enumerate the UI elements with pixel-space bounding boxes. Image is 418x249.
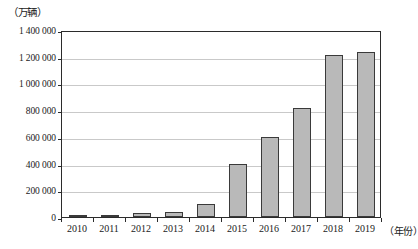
x-axis-tick-label: 2018 xyxy=(323,223,343,234)
bar xyxy=(165,212,183,217)
bar xyxy=(261,137,279,217)
x-axis-tick-labels: 2010201120122013201420152016201720182019 xyxy=(61,223,381,239)
x-axis-tick xyxy=(317,218,318,222)
x-axis-tick xyxy=(189,218,190,222)
y-axis-tick-label: 600 000 xyxy=(26,133,56,143)
bar xyxy=(325,55,343,217)
x-axis-tick-label: 2016 xyxy=(259,223,279,234)
x-axis-tick xyxy=(157,218,158,222)
bar-chart: （万辆） 0200 000400 000600 000800 0001 000 … xyxy=(0,0,418,249)
bars-layer xyxy=(62,32,380,217)
y-axis-tick-label: 400 000 xyxy=(26,160,56,170)
bar xyxy=(69,215,87,218)
y-axis-tick-label: 1 400 000 xyxy=(19,26,56,36)
y-axis-unit-label: （万辆） xyxy=(8,4,47,19)
bar xyxy=(133,213,151,217)
bar xyxy=(293,108,311,217)
x-axis-tick-label: 2017 xyxy=(291,223,311,234)
y-axis-tick-labels: 0200 000400 000600 000800 0001 000 0001 … xyxy=(0,31,56,218)
x-axis-title: （年份） xyxy=(384,223,418,238)
x-axis-tick xyxy=(93,218,94,222)
x-axis-tick-label: 2012 xyxy=(131,223,151,234)
bar xyxy=(357,52,375,217)
bar xyxy=(197,204,215,217)
y-axis-tick-label: 200 000 xyxy=(26,186,56,196)
bar xyxy=(101,215,119,218)
y-axis-tick-label: 1 200 000 xyxy=(19,53,56,63)
x-axis-tick-label: 2014 xyxy=(195,223,215,234)
x-axis-tick-label: 2015 xyxy=(227,223,247,234)
x-axis-tick xyxy=(349,218,350,222)
x-axis-tick xyxy=(285,218,286,222)
x-axis-tick-label: 2011 xyxy=(99,223,119,234)
y-axis-tick-label: 1 000 000 xyxy=(19,79,56,89)
x-axis-tick-label: 2010 xyxy=(67,223,87,234)
bar xyxy=(229,164,247,217)
x-axis-tick-label: 2013 xyxy=(163,223,183,234)
x-axis-tick xyxy=(253,218,254,222)
x-axis-tick xyxy=(125,218,126,222)
x-axis-tick xyxy=(221,218,222,222)
x-axis-tick-label: 2019 xyxy=(355,223,375,234)
plot-area xyxy=(61,31,381,218)
y-axis-tick-label: 0 xyxy=(51,213,56,223)
x-axis-tick xyxy=(61,218,62,222)
x-axis-tick xyxy=(381,218,382,222)
y-axis-tick-label: 800 000 xyxy=(26,106,56,116)
